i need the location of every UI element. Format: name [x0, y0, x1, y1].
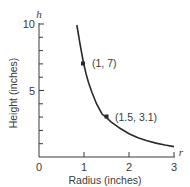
y-tick-label-10: 10	[23, 18, 35, 30]
data-point-1-7	[81, 62, 85, 66]
point-label-2: (1.5, 3.1)	[115, 111, 157, 123]
data-point-1.5-3.1	[105, 115, 109, 119]
x-ticks	[84, 152, 174, 157]
y-tick-label-5: 5	[29, 85, 35, 97]
x-tick-label-0: 0	[36, 161, 42, 173]
x-axis-title: Radius (inches)	[69, 174, 142, 186]
y-axis-title: Height (inches)	[7, 58, 19, 129]
x-axis-variable: r	[179, 146, 184, 158]
x-tick-label-3: 3	[171, 161, 177, 173]
curve-h-equals-7-over-r-squared	[77, 25, 174, 147]
point-label-1: (1, 7)	[92, 57, 117, 69]
y-ticks	[39, 24, 44, 144]
x-tick-label-1: 1	[81, 161, 87, 173]
x-tick-label-2: 2	[126, 161, 132, 173]
chart: 10 5 0 1 2 3 h r Radius (inches) Height …	[0, 0, 190, 187]
y-axis-variable: h	[36, 8, 42, 20]
